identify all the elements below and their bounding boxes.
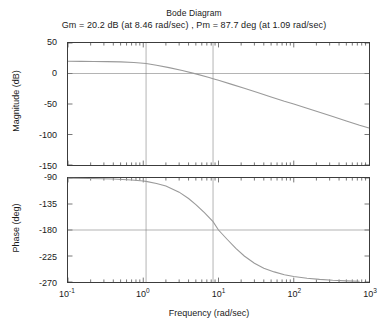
phase-plot-area bbox=[67, 177, 370, 283]
bode-diagram-figure: Bode Diagram Gm = 20.2 dB (at 8.46 rad/s… bbox=[0, 0, 388, 330]
stability-margins-text: Gm = 20.2 dB (at 8.46 rad/sec) , Pm = 87… bbox=[0, 20, 388, 30]
phase-axis-label: Phase (deg) bbox=[11, 184, 21, 272]
magnitude-ytick-3: -100 bbox=[39, 130, 62, 140]
magnitude-ytick-1: 0 bbox=[52, 68, 62, 78]
frequency-tick-0: 10-1 bbox=[59, 287, 75, 299]
frequency-tick-2: 101 bbox=[212, 287, 226, 299]
magnitude-ytick-0: 50 bbox=[47, 37, 62, 47]
frequency-axis-label: Frequency (rad/sec) bbox=[0, 308, 388, 318]
phase-ytick-3: -225 bbox=[39, 252, 62, 262]
magnitude-ytick-4: -150 bbox=[39, 161, 62, 171]
phase-ytick-2: -180 bbox=[39, 225, 62, 235]
frequency-tick-1: 100 bbox=[136, 287, 150, 299]
frequency-tick-4: 103 bbox=[363, 287, 377, 299]
page-title: Bode Diagram bbox=[0, 8, 388, 18]
magnitude-plot-area bbox=[67, 42, 370, 166]
phase-ytick-0: -90 bbox=[44, 172, 62, 182]
magnitude-axis-label: Magnitude (dB) bbox=[11, 51, 21, 151]
frequency-tick-3: 102 bbox=[287, 287, 301, 299]
magnitude-ytick-2: -50 bbox=[44, 99, 62, 109]
phase-ytick-1: -135 bbox=[39, 199, 62, 209]
frequency-axis-label-text: Frequency (rad/sec) bbox=[139, 308, 250, 318]
